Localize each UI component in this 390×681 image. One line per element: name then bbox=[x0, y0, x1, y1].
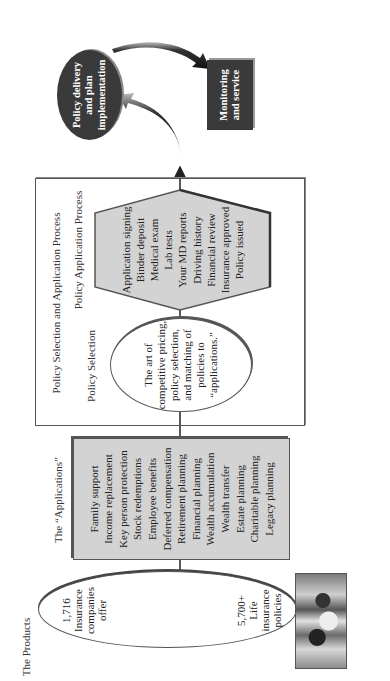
application-item: Family support bbox=[87, 466, 102, 533]
selection-line: and matching of bbox=[181, 329, 194, 400]
process-step: Application signing bbox=[119, 206, 133, 293]
products-companies-text: 1,716 Insurance companies offer bbox=[60, 573, 108, 648]
products-line: offer bbox=[96, 573, 108, 648]
process-step: Lab tests bbox=[161, 230, 175, 269]
delivery-line: Policy delivery bbox=[71, 62, 84, 128]
application-item: Income replacement bbox=[101, 454, 116, 543]
selection-line: “applications.” bbox=[207, 332, 220, 398]
swoosh-arrow-to-delivery bbox=[118, 93, 182, 159]
process-step: Financial review bbox=[204, 213, 218, 287]
application-item: Employee benefits bbox=[145, 458, 160, 540]
process-frame-title: Policy Selection and Application Process bbox=[50, 180, 62, 426]
delivery-line: and plan bbox=[83, 75, 96, 114]
selection-line: The art of bbox=[142, 343, 155, 386]
process-step: Policy issued bbox=[232, 221, 246, 279]
application-item: Key person protection bbox=[116, 450, 131, 548]
monitoring-box: Monitoring and service bbox=[207, 60, 253, 130]
process-step: Medical exam bbox=[147, 219, 161, 282]
products-line: 5,700+ bbox=[235, 573, 247, 648]
policy-selection-ellipse: The art of competitive pricing, policy s… bbox=[110, 318, 252, 412]
process-step: Insurance approved bbox=[218, 207, 232, 293]
application-process-title: Policy Application Process bbox=[72, 190, 84, 310]
application-item: Financial planning bbox=[189, 458, 204, 540]
selection-line: competitive pricing, bbox=[155, 321, 168, 410]
process-step: Driving history bbox=[190, 216, 204, 284]
application-item: Deferred compensation bbox=[160, 448, 175, 551]
diagram-canvas: The Products 1,716 Insurance companies o… bbox=[0, 0, 390, 681]
products-line: insurance bbox=[259, 573, 271, 648]
selection-line: policies to bbox=[194, 342, 207, 388]
products-line: policies bbox=[271, 573, 283, 648]
applications-box: Family support Income replacement Key pe… bbox=[73, 438, 290, 560]
products-title: The Products bbox=[20, 617, 32, 677]
swoosh-arrow-to-monitoring bbox=[112, 42, 210, 69]
policy-delivery-ellipse: Policy delivery and plan implementation bbox=[57, 50, 122, 140]
application-process-list: Application signing Binder deposit Medic… bbox=[95, 190, 270, 310]
products-line: 1,716 bbox=[60, 573, 72, 648]
application-item: Charitable planning bbox=[247, 455, 262, 542]
products-policies-text: 5,700+ Life insurance policies bbox=[235, 573, 283, 648]
application-item: Estate planning bbox=[233, 465, 248, 533]
process-step: Your MD reports bbox=[175, 212, 189, 287]
products-line: companies bbox=[84, 573, 96, 648]
application-item: Legacy planning bbox=[262, 462, 277, 536]
products-line: Life bbox=[247, 573, 259, 648]
applications-title: The “Applications” bbox=[52, 440, 64, 560]
application-item: Wealth accumulation bbox=[203, 453, 218, 546]
application-item: Stock redemptions bbox=[130, 458, 145, 540]
selection-line: policy selection, bbox=[168, 329, 181, 401]
application-item: Wealth transfer bbox=[218, 465, 233, 532]
monitoring-line: and service bbox=[230, 70, 243, 120]
process-step: Binder deposit bbox=[133, 218, 147, 282]
products-line: Insurance bbox=[72, 573, 84, 648]
policy-selection-title: Policy Selection bbox=[85, 320, 97, 412]
delivery-line: implementation bbox=[96, 60, 109, 131]
monitoring-line: Monitoring bbox=[218, 69, 231, 120]
application-item: Retirement planning bbox=[174, 454, 189, 544]
people-photo bbox=[295, 573, 347, 669]
